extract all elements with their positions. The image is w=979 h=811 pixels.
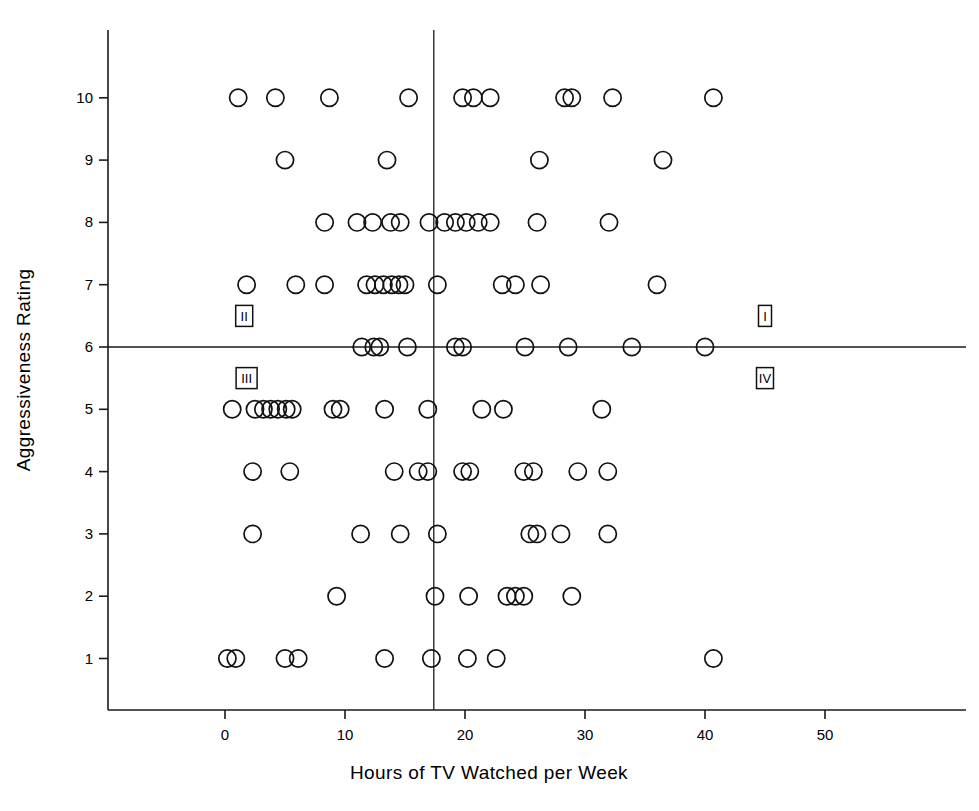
data-point-circle (386, 463, 403, 480)
quadrant-annotation-iii: III (236, 368, 257, 389)
x-tick-labels-group: 01020304050 (221, 726, 834, 743)
data-point-circle (563, 588, 580, 605)
data-point-circle (316, 276, 333, 293)
data-point-circle (460, 588, 477, 605)
data-point-circle (525, 463, 542, 480)
data-point-circle (599, 525, 616, 542)
data-point-circle (392, 214, 409, 231)
x-tick-label: 40 (697, 726, 714, 743)
data-point-circle (321, 89, 338, 106)
data-point-circle (515, 463, 532, 480)
y-tick-label: 4 (85, 463, 93, 480)
x-axis-title: Hours of TV Watched per Week (350, 762, 628, 783)
data-point-circle (705, 650, 722, 667)
data-point-circle (482, 214, 499, 231)
data-point-circle (281, 463, 298, 480)
data-point-circle (400, 89, 417, 106)
x-tick-label: 10 (337, 726, 354, 743)
y-tick-label: 1 (85, 650, 93, 667)
x-tick-label: 50 (817, 726, 834, 743)
data-point-circle (705, 89, 722, 106)
data-point-circle (290, 650, 307, 667)
tick-marks-group (99, 98, 825, 719)
y-tick-label: 8 (85, 213, 93, 230)
data-point-circle (532, 276, 549, 293)
data-point-circle (531, 152, 548, 169)
data-point-circle (276, 152, 293, 169)
scatter-plot-canvas: 01020304050 12345678910 IIIIIIIV Hours o… (0, 0, 979, 811)
data-point-circle (454, 89, 471, 106)
data-point-circle (382, 214, 399, 231)
data-point-circle (436, 214, 453, 231)
data-point-circle (426, 588, 443, 605)
data-point-circle (420, 214, 437, 231)
scatter-plot-figure: 01020304050 12345678910 IIIIIIIV Hours o… (0, 0, 979, 811)
data-point-circle (230, 89, 247, 106)
data-point-circle (648, 276, 665, 293)
data-point-circle (482, 89, 499, 106)
data-point-circle (604, 89, 621, 106)
y-tick-label: 7 (85, 276, 93, 293)
y-tick-label: 6 (85, 338, 93, 355)
quadrant-annotation-label: I (763, 309, 767, 324)
y-tick-label: 2 (85, 587, 93, 604)
quadrant-annotation-label: IV (759, 371, 772, 386)
data-point-circle (593, 401, 610, 418)
data-point-circle (287, 276, 304, 293)
data-point-circle (488, 650, 505, 667)
quadrant-annotation-label: II (241, 309, 248, 324)
data-point-circle (465, 89, 482, 106)
data-point-circle (473, 401, 490, 418)
data-point-circle (352, 525, 369, 542)
y-axis-title: Aggressiveness Rating (13, 269, 34, 472)
y-tick-label: 10 (76, 89, 93, 106)
data-point-circle (599, 463, 616, 480)
data-point-circle (364, 214, 381, 231)
data-point-circle (410, 463, 427, 480)
data-point-circle (447, 214, 464, 231)
data-point-circle (507, 276, 524, 293)
data-point-circle (267, 89, 284, 106)
data-point-circle (495, 401, 512, 418)
data-point-circle (348, 214, 365, 231)
data-point-circle (238, 276, 255, 293)
data-point-circle (600, 214, 617, 231)
data-point-circle (654, 152, 671, 169)
data-point-circle (552, 525, 569, 542)
quadrant-annotation-i: I (759, 305, 772, 326)
y-tick-label: 5 (85, 400, 93, 417)
data-point-circle (569, 463, 586, 480)
data-point-circle (244, 463, 261, 480)
data-point-circle (429, 276, 446, 293)
data-points-group (219, 89, 722, 667)
data-point-circle (376, 401, 393, 418)
data-point-circle (328, 588, 345, 605)
y-tick-label: 3 (85, 525, 93, 542)
data-point-circle (392, 525, 409, 542)
data-point-circle (376, 650, 393, 667)
data-point-circle (528, 214, 545, 231)
y-tick-label: 9 (85, 151, 93, 168)
data-point-circle (429, 525, 446, 542)
data-point-circle (459, 650, 476, 667)
data-point-circle (224, 401, 241, 418)
y-tick-labels-group: 12345678910 (76, 89, 93, 667)
quadrant-annotation-ii: II (236, 305, 253, 326)
x-tick-label: 0 (221, 726, 229, 743)
data-point-circle (423, 650, 440, 667)
quadrant-annotation-label: III (241, 371, 252, 386)
quadrant-annotation-iv: IV (757, 368, 774, 389)
x-tick-label: 20 (457, 726, 474, 743)
data-point-circle (244, 525, 261, 542)
data-point-circle (316, 214, 333, 231)
x-tick-label: 30 (577, 726, 594, 743)
data-point-circle (378, 152, 395, 169)
